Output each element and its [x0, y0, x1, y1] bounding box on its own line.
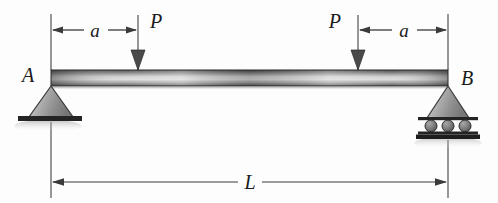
arrowhead-left-icon	[52, 178, 64, 185]
point-load-left: P	[131, 10, 162, 70]
point-load-right-label: P	[328, 10, 341, 32]
dimension-a-right: a	[359, 20, 447, 41]
point-load-left-label: P	[149, 10, 162, 32]
roller-triangle-icon	[427, 86, 469, 118]
dimension-a-right-label: a	[399, 20, 409, 41]
dimension-span-L: L	[52, 171, 447, 193]
arrowhead-right-icon	[436, 26, 447, 33]
dimension-a-left-label: a	[90, 20, 100, 41]
roller-circle-icon	[459, 120, 471, 132]
arrowhead-right-icon	[126, 26, 137, 33]
support-left-label: A	[20, 64, 35, 86]
arrowhead-down-icon	[351, 50, 365, 70]
roller-wheels	[425, 120, 471, 132]
point-load-right: P	[328, 10, 365, 70]
dimension-span-label: L	[243, 171, 255, 193]
roller-bottom-rail	[418, 132, 478, 135]
arrowhead-left-icon	[52, 26, 63, 33]
beam	[51, 70, 448, 88]
beam-diagram-figure: a a P P	[0, 0, 498, 203]
arrowhead-down-icon	[131, 50, 145, 70]
arrowhead-left-icon	[359, 26, 370, 33]
support-shadow	[14, 120, 82, 132]
beam-diagram-canvas: a a P P	[0, 0, 498, 203]
dimension-a-left: a	[52, 20, 137, 41]
ground-line	[18, 116, 82, 121]
roller-circle-icon	[442, 120, 454, 132]
ground-line	[416, 135, 480, 140]
roller-circle-icon	[425, 120, 437, 132]
arrowhead-right-icon	[435, 178, 447, 185]
pin-triangle-icon	[29, 86, 73, 117]
support-right-label: B	[461, 67, 473, 89]
